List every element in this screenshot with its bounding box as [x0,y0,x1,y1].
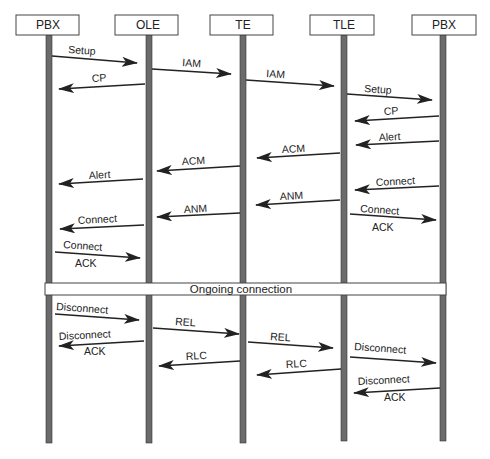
message-arrow [60,225,144,229]
message-label: Connect [375,174,415,188]
message-label-secondary: ACK [75,257,97,269]
message-label: ACM [181,154,205,167]
message-label: Disconnect [354,340,407,356]
message-label: Connect [77,212,117,226]
message-label-secondary: ACK [84,345,106,357]
message-arrow [55,314,139,320]
message-arrow [350,357,436,363]
message-label: Disconnect [58,327,111,342]
message-arrow [153,328,239,334]
message-arrow [248,342,333,348]
participant-label: PBX [432,18,456,32]
message-label: Connect [63,238,103,253]
participant-pbx-right: PBX [412,15,476,35]
lifeline-ole [146,35,152,443]
message-arrow [157,166,240,171]
participant-label: OLE [136,18,160,32]
message-label: Alert [88,168,110,181]
message-arrow [55,252,140,258]
message-label: Alert [378,130,400,143]
message-arrow [246,80,334,86]
lifeline-te [240,35,246,443]
message-label: ANM [183,202,207,215]
message-label: Setup [68,43,96,57]
message-label: Disconnect [56,300,109,316]
message-label: CP [91,71,106,84]
message-label: ACM [281,142,305,155]
participant-tle: TLE [310,15,374,35]
message-arrow [159,361,240,366]
lifeline-tle [341,35,347,441]
message-arrow [59,84,145,89]
message-arrow [257,369,341,375]
participant-te: TE [210,15,273,35]
participant-label: TE [235,18,250,32]
message-label: REL [175,315,196,328]
message-label: REL [270,330,291,343]
message-labels: Setup IAM CP IAM Setup CP Alert ACM ACM … [56,43,415,403]
sequence-diagram: PBX OLE TE TLE PBX Ongoing connection [0,0,490,459]
message-label-secondary: ACK [384,391,406,403]
message-label-secondary: ACK [372,221,394,233]
lifeline-pbx-right [440,35,446,441]
message-label: IAM [182,56,201,69]
message-arrow [152,69,231,74]
message-label: ANM [279,189,303,202]
lifeline-pbx-left [46,35,52,443]
participant-label: PBX [36,18,60,32]
message-label: Disconnect [357,372,410,387]
message-arrow [355,116,439,121]
message-arrow [52,56,137,63]
ongoing-connection-bar: Ongoing connection [45,283,446,295]
message-label: RLC [185,349,207,362]
message-label: CP [383,104,398,117]
message-label: Setup [364,82,392,96]
message-label: RLC [285,357,307,370]
ongoing-connection-label: Ongoing connection [190,283,292,295]
participant-ole: OLE [115,15,178,35]
message-label: IAM [266,67,285,80]
participant-label: TLE [333,18,355,32]
participant-pbx-left: PBX [16,15,79,35]
